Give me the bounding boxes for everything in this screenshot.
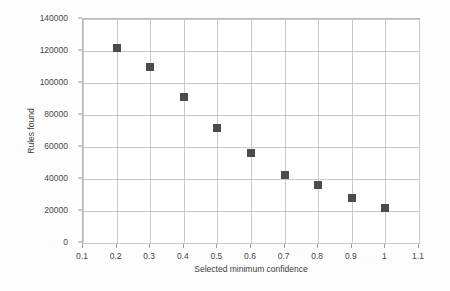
y-axis-tick-label: 20000 [44,205,68,215]
y-axis-tick-label: 60000 [44,141,68,151]
x-axis-tick-mark [216,244,217,248]
plot-area [82,18,420,244]
x-axis-tick-label: 0.9 [345,251,357,261]
y-axis-tick-label: 40000 [44,173,68,183]
gridline-vertical [285,19,286,243]
data-point-marker [113,44,121,52]
x-axis-tick-mark [116,244,117,248]
gridline-vertical [419,19,420,243]
x-axis-tick-mark [82,244,83,248]
gridline-vertical [150,19,151,243]
data-point-marker [281,171,289,179]
x-axis-tick-label: 0.4 [177,251,189,261]
x-axis-tick-mark [351,244,352,248]
x-axis-tick-label: 0.8 [311,251,323,261]
x-axis-tick-label: 0.3 [143,251,155,261]
y-axis-title: Rules found [26,18,36,244]
y-axis-tick-layer: 020000400006000080000100000120000140000 [0,18,78,244]
x-axis-tick-mark [418,244,419,248]
data-point-marker [314,181,322,189]
x-axis-tick-label: 0.1 [76,251,88,261]
x-axis-tick-label: 0.7 [278,251,290,261]
x-axis-title: Selected minimum confidence [82,264,420,274]
data-point-marker [213,124,221,132]
data-point-marker [247,149,255,157]
x-axis-tick-label: 0.6 [244,251,256,261]
x-axis-tick-mark [183,244,184,248]
x-axis-tick-mark [384,244,385,248]
x-axis-tick-mark [250,244,251,248]
gridline-vertical [318,19,319,243]
y-axis-tick-label: 80000 [44,109,68,119]
x-axis-tick-mark [149,244,150,248]
chart-screenshot: 020000400006000080000100000120000140000 … [0,0,450,291]
data-point-marker [180,93,188,101]
x-axis-tick-label: 1 [382,251,387,261]
data-point-marker [381,204,389,212]
y-axis-tick-label: 100000 [40,77,68,87]
y-axis-tick-label: 120000 [40,45,68,55]
x-axis-tick-mark [284,244,285,248]
y-axis-tick-label: 0 [63,237,68,247]
x-axis-tick-label: 1.1 [412,251,424,261]
gridline-vertical [184,19,185,243]
gridline-vertical [83,19,84,243]
y-axis-tick-label: 140000 [40,13,68,23]
data-point-marker [146,63,154,71]
gridline-vertical [117,19,118,243]
x-axis-tick-label: 0.5 [210,251,222,261]
gridline-vertical [352,19,353,243]
gridline-vertical [251,19,252,243]
x-axis-tick-label: 0.2 [110,251,122,261]
x-axis-tick-mark [317,244,318,248]
data-point-marker [348,194,356,202]
